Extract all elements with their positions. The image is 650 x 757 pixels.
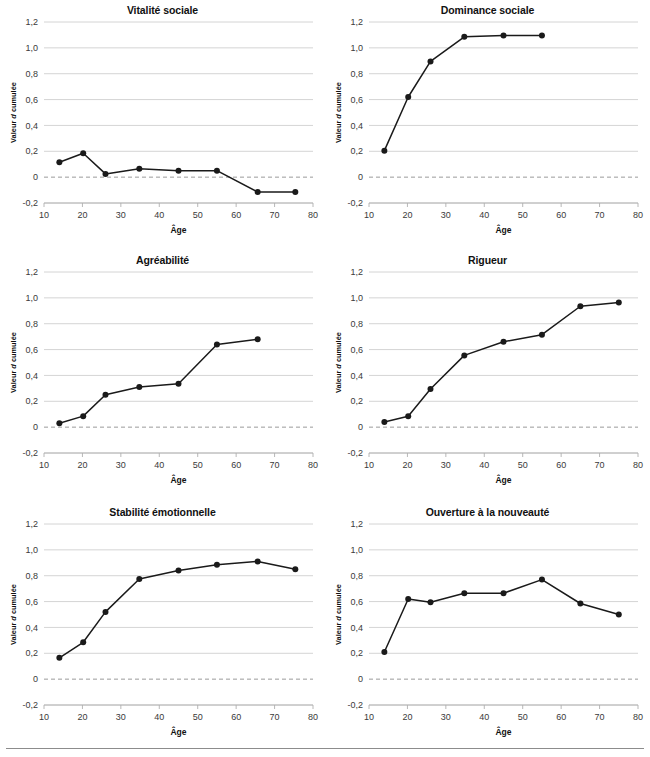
y-tick-label: 0 [33, 422, 38, 432]
x-axis-title: Âge [170, 726, 186, 737]
y-tick-label: -0,2 [22, 198, 38, 208]
x-tick-label: 20 [77, 210, 87, 220]
figure-root: Vitalité sociale -0,200,20,40,60,81,01,2… [0, 0, 650, 757]
x-tick-label: 80 [633, 712, 643, 722]
y-tick-label: -0,2 [347, 700, 363, 710]
x-tick-label: 70 [270, 460, 280, 470]
footer-divider [6, 748, 644, 749]
x-tick-label: 10 [364, 210, 374, 220]
data-point [616, 612, 622, 618]
y-tick-label: 0,4 [25, 371, 38, 381]
y-tick-label: 0,4 [25, 623, 38, 633]
y-tick-label: 1,0 [25, 293, 38, 303]
data-point [501, 590, 507, 596]
chart-svg: -0,200,20,40,60,81,01,21020304050607080Â… [0, 250, 325, 500]
chart-svg: -0,200,20,40,60,81,01,21020304050607080Â… [0, 502, 325, 752]
data-point [501, 33, 507, 39]
x-tick-label: 20 [402, 210, 412, 220]
y-tick-label: 1,0 [350, 43, 363, 53]
y-tick-label: 0,8 [350, 571, 363, 581]
chart-panel-vitalite-sociale: Vitalité sociale -0,200,20,40,60,81,01,2… [0, 0, 325, 250]
y-tick-label: 0 [33, 674, 38, 684]
data-point [539, 33, 545, 39]
y-tick-label: 0,2 [25, 648, 38, 658]
x-tick-label: 30 [441, 210, 451, 220]
y-tick-label: 0,8 [25, 69, 38, 79]
data-point [539, 332, 545, 338]
y-tick-label: 1,2 [25, 17, 38, 27]
x-tick-label: 40 [479, 460, 489, 470]
y-tick-label: -0,2 [347, 198, 363, 208]
x-tick-label: 50 [518, 210, 528, 220]
data-point [176, 168, 182, 174]
x-axis-title: Âge [495, 224, 511, 235]
data-point [292, 189, 298, 195]
x-tick-label: 60 [556, 460, 566, 470]
y-tick-label: 1,2 [350, 519, 363, 529]
x-axis-title: Âge [495, 474, 511, 485]
chart-svg: -0,200,20,40,60,81,01,21020304050607080Â… [0, 0, 325, 250]
x-tick-label: 30 [116, 712, 126, 722]
data-point [381, 419, 387, 425]
x-tick-label: 10 [39, 712, 49, 722]
x-tick-label: 80 [308, 712, 318, 722]
data-point [461, 590, 467, 596]
y-tick-label: 1,2 [350, 267, 363, 277]
x-axis-title: Âge [495, 726, 511, 737]
data-point [427, 386, 433, 392]
y-tick-label: 0,4 [350, 121, 363, 131]
y-axis-title: Valeur d cumulée [334, 584, 343, 645]
data-point [255, 336, 261, 342]
data-point [176, 381, 182, 387]
y-tick-label: 0,6 [25, 597, 38, 607]
y-tick-label: 0,8 [350, 319, 363, 329]
x-tick-label: 30 [441, 712, 451, 722]
x-tick-label: 50 [193, 460, 203, 470]
data-point [56, 655, 62, 661]
data-point [102, 392, 108, 398]
chart-svg: -0,200,20,40,60,81,01,21020304050607080Â… [325, 0, 650, 250]
x-tick-label: 80 [308, 210, 318, 220]
y-tick-label: 0,2 [25, 396, 38, 406]
x-tick-label: 60 [231, 460, 241, 470]
series-line [384, 580, 618, 652]
y-axis-title: Valeur d cumulée [9, 82, 18, 143]
chart-svg: -0,200,20,40,60,81,01,21020304050607080Â… [325, 250, 650, 500]
data-point [80, 150, 86, 156]
series-line [59, 339, 257, 423]
y-axis-title: Valeur d cumulée [9, 584, 18, 645]
y-axis-title: Valeur d cumulée [9, 332, 18, 393]
data-point [405, 596, 411, 602]
x-tick-label: 20 [402, 460, 412, 470]
data-point [427, 58, 433, 64]
y-tick-label: 0 [33, 172, 38, 182]
x-tick-label: 20 [77, 712, 87, 722]
y-tick-label: -0,2 [347, 448, 363, 458]
x-tick-label: 20 [77, 460, 87, 470]
x-tick-label: 40 [154, 460, 164, 470]
x-tick-label: 80 [633, 210, 643, 220]
data-point [102, 171, 108, 177]
data-point [214, 562, 220, 568]
x-tick-label: 10 [364, 712, 374, 722]
x-tick-label: 20 [402, 712, 412, 722]
y-tick-label: 0,4 [25, 121, 38, 131]
x-tick-label: 50 [518, 712, 528, 722]
x-tick-label: 70 [595, 712, 605, 722]
x-tick-label: 60 [556, 210, 566, 220]
x-tick-label: 10 [364, 460, 374, 470]
y-tick-label: 0,6 [25, 95, 38, 105]
y-tick-label: -0,2 [22, 700, 38, 710]
y-tick-label: 0,2 [350, 146, 363, 156]
x-tick-label: 60 [231, 210, 241, 220]
data-point [80, 639, 86, 645]
series-line [384, 36, 542, 151]
y-tick-label: 0,6 [350, 95, 363, 105]
y-tick-label: -0,2 [22, 448, 38, 458]
data-point [461, 34, 467, 40]
y-tick-label: 1,0 [25, 545, 38, 555]
data-point [539, 577, 545, 583]
series-line [384, 302, 618, 422]
y-tick-label: 1,0 [25, 43, 38, 53]
x-tick-label: 50 [193, 712, 203, 722]
